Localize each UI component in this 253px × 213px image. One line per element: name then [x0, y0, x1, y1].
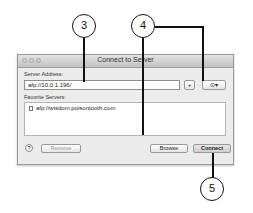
callout-3-line — [83, 38, 85, 82]
callout-4-branch-line — [155, 26, 204, 28]
browse-button[interactable]: Browse — [150, 144, 188, 153]
connect-button[interactable]: Connect — [193, 144, 231, 153]
favorite-servers-label: Favorite Servers: — [24, 94, 66, 100]
server-address-input[interactable]: afp://10.0.1.196/ — [24, 80, 180, 90]
callout-3: 3 — [72, 14, 96, 38]
callout-4-line — [142, 38, 144, 135]
callout-4: 4 — [131, 14, 155, 38]
callout-4-branch-drop — [202, 26, 204, 81]
window-title: Connect to Server — [18, 56, 233, 63]
favorite-servers-list[interactable]: afp://wisdom.poisontooth.com — [24, 102, 226, 136]
add-favorite-button[interactable]: + — [184, 80, 195, 90]
help-button[interactable]: ? — [25, 144, 33, 152]
remove-button[interactable]: Remove — [41, 144, 81, 153]
server-address-label: Server Address: — [24, 71, 63, 77]
recent-servers-button[interactable]: ⊙▾ — [202, 80, 226, 90]
title-bar: Connect to Server — [18, 55, 233, 68]
server-icon — [29, 106, 33, 111]
list-item[interactable]: afp://wisdom.poisontooth.com — [29, 105, 115, 111]
callout-5-line — [212, 153, 214, 178]
callout-5: 5 — [200, 177, 224, 201]
